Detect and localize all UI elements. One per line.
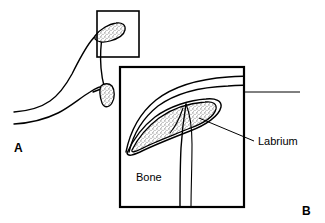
anatomy-figure-svg: A: [0, 0, 325, 223]
panel-letter-b: B: [302, 204, 311, 218]
panel-a-labrum-stipple-upper: [95, 23, 125, 42]
panel-a-upper-contour: [14, 30, 103, 112]
panel-b-group: Labrium Bone B: [120, 67, 311, 218]
figure-container: A: [0, 0, 325, 223]
panel-letter-a: A: [14, 141, 23, 155]
panel-a-labrum-stipple-lower: [100, 84, 114, 107]
labrium-label: Labrium: [258, 135, 298, 147]
bone-label: Bone: [136, 171, 162, 183]
